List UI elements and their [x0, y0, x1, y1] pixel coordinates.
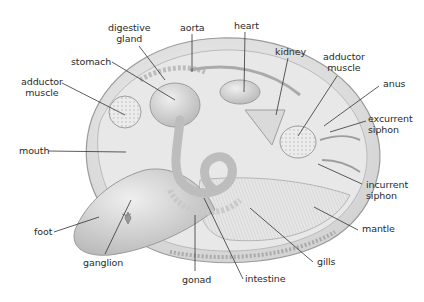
label-mouth: mouth: [19, 145, 49, 156]
label-line: incurrent: [366, 179, 408, 190]
label-intestine: intestine: [245, 273, 286, 284]
label-line: siphon: [366, 190, 408, 201]
clam-anatomy-illustration: [0, 0, 424, 302]
label-ganglion: ganglion: [83, 257, 123, 268]
label-line: muscle: [323, 62, 365, 73]
label-gills: gills: [317, 256, 335, 267]
heart-shape: [220, 80, 260, 104]
label-adductor-muscle-anterior: adductor muscle: [21, 76, 63, 98]
label-line: siphon: [368, 124, 413, 135]
label-anus: anus: [383, 78, 405, 89]
label-line: adductor: [21, 76, 63, 87]
label-line: adductor: [323, 51, 365, 62]
adductor-muscle-posterior-shape: [280, 126, 316, 158]
label-gonad: gonad: [182, 274, 211, 285]
label-line: excurrent: [368, 113, 413, 124]
label-kidney: kidney: [275, 46, 306, 57]
label-line: gland: [108, 33, 150, 44]
label-line: muscle: [21, 87, 63, 98]
label-mantle: mantle: [362, 223, 395, 234]
label-stomach: stomach: [71, 56, 111, 67]
adductor-muscle-anterior-shape: [109, 96, 141, 128]
label-digestive-gland: digestive gland: [108, 22, 150, 44]
label-foot: foot: [34, 226, 52, 237]
label-line: digestive: [108, 22, 150, 33]
label-aorta: aorta: [180, 22, 205, 33]
label-adductor-muscle-posterior: adductor muscle: [323, 51, 365, 73]
label-excurrent-siphon: excurrent siphon: [368, 113, 413, 135]
label-heart: heart: [234, 20, 259, 31]
label-incurrent-siphon: incurrent siphon: [366, 179, 408, 201]
